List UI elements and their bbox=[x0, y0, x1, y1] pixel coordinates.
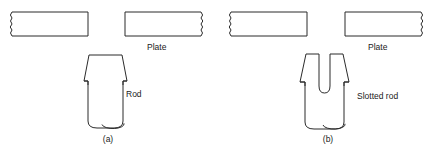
rod-shoulder-left bbox=[84, 81, 88, 85]
slotted-rod-bottom-ellipse bbox=[323, 124, 345, 129]
plate-label: Plate bbox=[368, 42, 388, 52]
slotted-rod-outline bbox=[300, 54, 349, 129]
slotted-rod-label: Slotted rod bbox=[357, 91, 398, 101]
panel-a-caption: (a) bbox=[103, 134, 114, 144]
panel-b: Plate Slotted rod (b) bbox=[229, 12, 423, 144]
panel-b-caption: (b) bbox=[323, 134, 334, 144]
panel-b-left-plate bbox=[229, 12, 307, 36]
slotted-rod-shoulder-right bbox=[344, 82, 349, 86]
panel-a-right-plate bbox=[125, 12, 203, 36]
plate-outline bbox=[125, 12, 203, 36]
rod-shoulder-right bbox=[123, 81, 127, 85]
plate-outline bbox=[10, 12, 88, 36]
technical-figure: Plate Rod (a) Plate bbox=[0, 0, 443, 150]
rod-outline bbox=[84, 55, 127, 128]
rod-shape bbox=[84, 55, 127, 129]
plate-outline bbox=[345, 12, 423, 36]
rod-label: Rod bbox=[126, 89, 142, 99]
panel-b-right-plate bbox=[345, 12, 423, 36]
figure-canvas: Plate Rod (a) Plate bbox=[0, 0, 443, 150]
slotted-rod-shoulder-left bbox=[300, 82, 305, 86]
plate-label: Plate bbox=[147, 42, 167, 52]
slotted-rod-shape bbox=[300, 54, 349, 129]
panel-a: Plate Rod (a) bbox=[10, 12, 203, 144]
panel-a-left-plate bbox=[10, 12, 88, 36]
plate-outline bbox=[229, 12, 307, 36]
